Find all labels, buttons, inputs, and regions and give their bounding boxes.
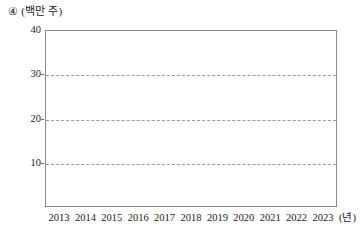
- gridline-20: [46, 120, 336, 121]
- chart-figure: ④(백만 주) 10203040 20132014201520162017201…: [0, 0, 360, 237]
- y-tick-mark: [41, 119, 44, 120]
- y-axis-tick-labels: 10203040: [0, 30, 41, 207]
- gridline-30: [46, 75, 336, 76]
- y-axis-unit-label: (백만 주): [21, 5, 62, 17]
- chart-header: ④(백만 주): [8, 4, 62, 18]
- y-tick-mark: [41, 74, 44, 75]
- item-number-label: ④: [8, 5, 18, 17]
- x-axis-tick-labels: 2013201420152016201720182019202020212022…: [45, 212, 337, 228]
- y-tick-label: 20: [1, 114, 41, 124]
- plot-area: [45, 30, 337, 207]
- y-tick-mark: [41, 163, 44, 164]
- x-axis-unit-label: (년): [339, 212, 356, 224]
- y-tick-label: 10: [1, 158, 41, 168]
- x-tick-label: 2023: [305, 212, 341, 224]
- y-tick-label: 30: [1, 69, 41, 79]
- y-tick-label: 40: [1, 25, 41, 35]
- gridline-10: [46, 164, 336, 165]
